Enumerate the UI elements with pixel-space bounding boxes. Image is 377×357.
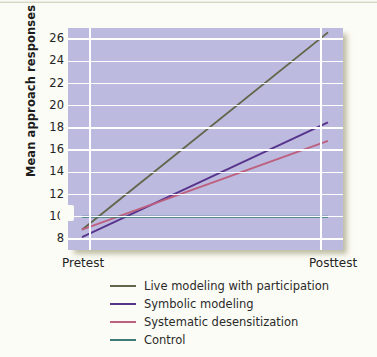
gridline-vertical [89, 28, 91, 250]
legend-label: Live modeling with participation [144, 279, 329, 293]
y-tick-label: 12 [38, 189, 64, 201]
y-tick-label: 8 [38, 233, 64, 245]
legend-item: Control [110, 331, 375, 349]
gridline-horizontal [68, 38, 343, 40]
x-tick-pretest: Pretest [62, 256, 104, 270]
legend-item: Symbolic modeling [110, 295, 375, 313]
y-tick-label: 26 [38, 33, 64, 45]
legend-item: Systematic desensitization [110, 313, 375, 331]
y-tick-label: 16 [38, 144, 64, 156]
gridline-horizontal [68, 194, 343, 196]
x-tick-posttest: Posttest [309, 256, 357, 270]
series-line [82, 122, 328, 237]
gridline-horizontal [68, 149, 343, 151]
plot-area [68, 28, 343, 250]
gridline-horizontal [68, 127, 343, 129]
legend-label: Systematic desensitization [144, 315, 298, 329]
y-tick-label: 14 [38, 166, 64, 178]
gridline-horizontal [68, 216, 343, 218]
gridline-horizontal [68, 172, 343, 174]
legend-item: Live modeling with participation [110, 277, 375, 295]
gridline-vertical [320, 28, 322, 250]
y-axis-break-mark [60, 205, 74, 221]
gridline-horizontal [68, 83, 343, 85]
legend-color-swatch [110, 321, 136, 324]
y-tick-label: 24 [38, 55, 64, 67]
y-axis-tick-labels: 8101214161820222426 [36, 0, 64, 357]
legend-label: Control [144, 333, 186, 347]
y-tick-label: 20 [38, 100, 64, 112]
gridline-horizontal [68, 238, 343, 240]
legend-color-swatch [110, 339, 136, 342]
gridline-horizontal [68, 105, 343, 107]
legend-color-swatch [110, 303, 136, 306]
chart-figure: Mean approach responses 8101214161820222… [0, 0, 377, 357]
gridline-horizontal [68, 61, 343, 63]
legend-label: Symbolic modeling [144, 297, 254, 311]
chart-legend: Live modeling with participationSymbolic… [110, 277, 375, 349]
legend-color-swatch [110, 285, 136, 288]
y-tick-label: 22 [38, 78, 64, 90]
y-tick-label: 18 [38, 122, 64, 134]
